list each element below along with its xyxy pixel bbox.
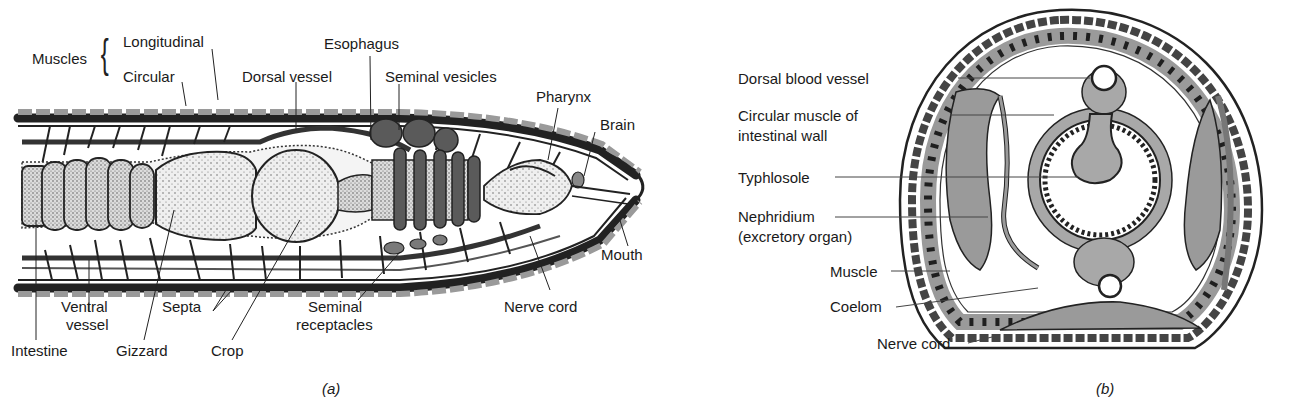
label-brain: Brain <box>600 116 635 134</box>
label-gizzard: Gizzard <box>116 342 168 360</box>
label-circular-muscle-line1: Circular muscle of <box>738 107 858 125</box>
label-nerve-cord-b: Nerve cord <box>877 335 950 353</box>
label-nephridium-line2: (excretory organ) <box>738 228 852 246</box>
label-coelom: Coelom <box>830 298 882 316</box>
label-typhlosole: Typhlosole <box>738 169 810 187</box>
label-longitudinal: Longitudinal <box>123 33 204 51</box>
label-septa: Septa <box>162 298 201 316</box>
label-muscles: Muscles <box>32 50 87 68</box>
label-seminal-receptacles-line2: receptacles <box>296 316 373 334</box>
label-mouth: Mouth <box>601 246 643 264</box>
label-seminal-vesicles: Seminal vesicles <box>385 68 497 86</box>
label-ventral-vessel-line2: vessel <box>66 316 109 334</box>
label-dorsal-blood-vessel: Dorsal blood vessel <box>738 70 869 88</box>
muscles-brace: { <box>101 34 109 74</box>
label-ventral-vessel-line1: Ventral <box>61 298 108 316</box>
label-nephridium-line1: Nephridium <box>738 208 815 226</box>
earthworm-longitudinal-section-drawing <box>0 0 1303 410</box>
label-circular-muscle-line2: intestinal wall <box>738 127 827 145</box>
label-dorsal-vessel: Dorsal vessel <box>242 68 332 86</box>
caption-b: (b) <box>1096 380 1114 397</box>
caption-a: (a) <box>322 380 340 397</box>
label-muscle: Muscle <box>830 263 878 281</box>
label-crop: Crop <box>211 342 244 360</box>
label-nerve-cord-a: Nerve cord <box>504 298 577 316</box>
label-pharynx: Pharynx <box>536 88 591 106</box>
label-seminal-receptacles-line1: Seminal <box>308 298 362 316</box>
label-intestine: Intestine <box>11 342 68 360</box>
label-esophagus: Esophagus <box>324 35 399 53</box>
label-circular: Circular <box>123 68 175 86</box>
